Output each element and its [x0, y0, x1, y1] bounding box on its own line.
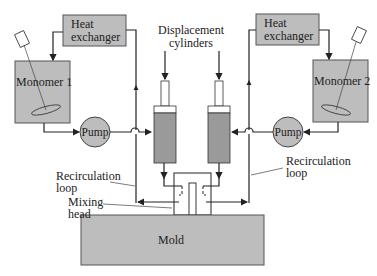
left-recirculation-line-upper — [126, 30, 136, 130]
left-recirculation-leader — [110, 182, 135, 186]
left-pump-to-cylinder-line — [110, 128, 151, 132]
monomer-1-tank: Monomer 1 — [15, 61, 72, 123]
right-recirculation-line-upper — [249, 30, 256, 130]
displacement-cylinders-label-1: Displacement — [158, 23, 225, 37]
mixing-head — [174, 173, 211, 215]
right-displacement-cylinder — [208, 81, 230, 163]
monomer-2-label: Monomer 2 — [314, 74, 370, 88]
right-tank-to-pump-line — [304, 122, 338, 132]
mold-label: Mold — [158, 233, 184, 247]
left-heat-exchanger-label-1: Heat — [71, 17, 94, 31]
rim-process-diagram: Heat exchanger Monomer 1 Pump Heat excha… — [0, 0, 377, 276]
left-heat-exchanger-label-2: exchanger — [71, 30, 120, 44]
right-hx-to-tank-line — [319, 30, 329, 59]
mold: Mold — [81, 215, 264, 265]
right-recirculation-leader — [251, 168, 283, 175]
left-recirculation-arrow-icon — [134, 85, 139, 90]
mixing-head-label-2: head — [68, 207, 91, 221]
left-hx-to-tank-line — [53, 32, 63, 60]
left-recirculation-label-2: loop — [56, 181, 77, 195]
right-heat-exchanger-label-2: exchanger — [264, 29, 313, 43]
left-displacement-cylinder — [154, 81, 176, 163]
left-pump: Pump — [80, 117, 110, 147]
right-heat-exchanger-label-1: Heat — [264, 16, 287, 30]
right-pump-to-cylinder-line — [232, 128, 273, 132]
right-pump: Pump — [273, 117, 303, 147]
left-tank-to-pump-line — [44, 123, 79, 132]
right-pump-label: Pump — [275, 126, 302, 139]
right-heat-exchanger: Heat exchanger — [256, 14, 319, 45]
displacement-cylinders-label-2: cylinders — [169, 36, 213, 50]
right-recirculation-arrow-icon — [247, 80, 252, 85]
right-recirculation-label-2: loop — [286, 166, 307, 180]
left-heat-exchanger: Heat exchanger — [63, 15, 126, 46]
left-pump-label: Pump — [82, 126, 109, 139]
mixing-head-leader — [103, 204, 172, 208]
monomer-1-label: Monomer 1 — [16, 75, 72, 89]
